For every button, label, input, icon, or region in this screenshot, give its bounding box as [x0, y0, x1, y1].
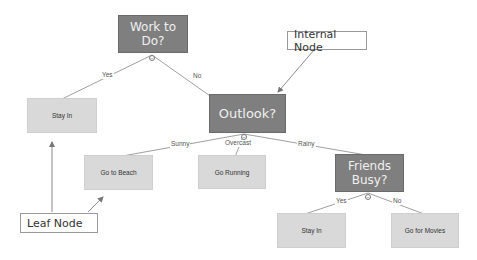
leaf-go-for-movies[interactable]: Go for Movies	[391, 213, 459, 248]
leaf-stay-in-2[interactable]: Stay In	[277, 213, 346, 248]
node-label-line1: Work to	[130, 20, 176, 34]
node-label-line1: Friends	[348, 159, 391, 173]
node-label: Go for Movies	[405, 227, 445, 234]
leaf-go-running[interactable]: Go Running	[198, 155, 266, 189]
leaf-stay-in-1[interactable]: Stay In	[27, 98, 97, 133]
decision-tree-diagram: Work to Do? − Outlook? − Friends Busy? −…	[0, 0, 477, 260]
node-outlook[interactable]: Outlook?	[209, 94, 286, 133]
node-label: Go Running	[215, 169, 250, 176]
edge-label-no: No	[192, 73, 202, 80]
callout-label: Internal Node	[294, 28, 360, 54]
node-label-line2: Busy?	[352, 173, 388, 187]
edge-label-overcast: Overcast	[224, 140, 252, 147]
edge-label-yes: Yes	[101, 72, 114, 79]
node-friends-busy[interactable]: Friends Busy?	[335, 154, 404, 192]
edge-label-sunny: Sunny	[170, 141, 190, 148]
edge-label-rainy: Rainy	[297, 141, 316, 148]
node-label: Stay In	[52, 112, 72, 119]
callout-internal-node: Internal Node	[287, 31, 367, 50]
node-label: Go to Beach	[100, 169, 136, 176]
collapse-icon[interactable]: −	[149, 55, 155, 61]
node-label: Stay In	[301, 227, 321, 234]
node-work-to-do[interactable]: Work to Do?	[118, 15, 188, 53]
node-label-line2: Do?	[142, 34, 165, 48]
leaf-go-to-beach[interactable]: Go to Beach	[84, 155, 153, 190]
callout-label: Leaf Node	[27, 217, 83, 230]
node-label: Outlook?	[219, 106, 277, 122]
edge-label-yes: Yes	[335, 198, 348, 205]
edge-label-no: No	[392, 198, 402, 205]
collapse-icon[interactable]: −	[365, 194, 371, 200]
callout-leaf-node: Leaf Node	[20, 213, 98, 233]
